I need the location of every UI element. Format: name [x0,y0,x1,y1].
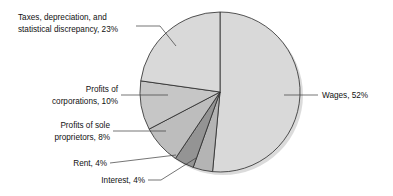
pie-slices [140,12,300,172]
label-corporations-line2: corporations, 10% [52,97,118,106]
label-wages: Wages, 52% [322,91,368,100]
label-corporations-line1: Profits of [86,85,119,94]
label-sole-proprietors-line1: Profits of sole [60,121,110,130]
label-interest: Interest, 4% [101,176,145,185]
slice-taxes[interactable] [141,12,220,92]
label-rent: Rent, 4% [73,159,107,168]
pie-chart-svg: Taxes, depreciation, and statistical dis… [0,0,393,196]
label-sole-proprietors-line2: proprietors, 8% [54,133,110,142]
pie-chart-figure: Taxes, depreciation, and statistical dis… [0,0,393,196]
leader-rent [110,155,176,163]
label-taxes-line1: Taxes, depreciation, and [18,13,107,22]
slice-wages[interactable] [213,12,300,172]
label-taxes-line2: statistical discrepancy, 23% [18,25,118,34]
